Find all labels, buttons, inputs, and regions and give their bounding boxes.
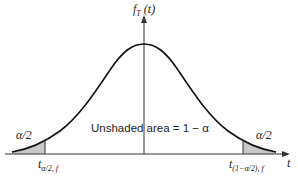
left-cutoff-label: tα/2, f bbox=[38, 158, 58, 173]
right-tail-label: α/2 bbox=[256, 129, 272, 141]
x-axis-label: t bbox=[287, 157, 290, 169]
right-cutoff-sub: (1−α/2), f bbox=[232, 164, 263, 173]
right-cutoff-label: t(1−α/2), f bbox=[229, 158, 264, 173]
center-area-label: Unshaded area = 1 − α bbox=[91, 123, 209, 135]
y-axis-label: fT (t) bbox=[133, 3, 155, 18]
t-distribution-figure bbox=[0, 0, 298, 178]
left-cutoff-sub: α/2, f bbox=[41, 164, 58, 173]
y-axis-label-sub: T bbox=[136, 9, 140, 18]
y-axis-label-arg: (t) bbox=[144, 2, 155, 16]
left-tail-label: α/2 bbox=[16, 129, 32, 141]
